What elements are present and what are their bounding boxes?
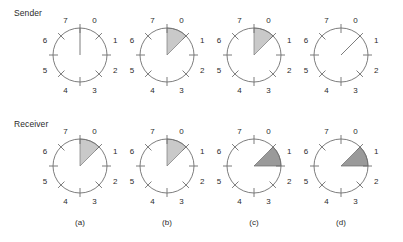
- sector-label-5-receiver-c: 5: [217, 177, 222, 186]
- sector-label-5-receiver-d: 5: [304, 177, 309, 186]
- sector-label-3-sender-a: 3: [92, 86, 97, 95]
- sector-label-6-sender-c: 6: [217, 36, 222, 45]
- sector-label-2-receiver-c: 2: [287, 177, 292, 186]
- sector-label-6-receiver-d: 6: [304, 147, 309, 156]
- window-wedge-receiver-d: [341, 147, 368, 166]
- clock-receiver-a: 01234567: [43, 127, 118, 206]
- panel-caption-c: (c): [234, 218, 274, 227]
- sector-label-0-receiver-d: 0: [353, 127, 358, 136]
- sector-label-5-sender-a: 5: [43, 66, 48, 75]
- sector-label-3-receiver-b: 3: [179, 197, 184, 206]
- sector-label-7-receiver-b: 7: [150, 127, 155, 136]
- sector-label-3-sender-c: 3: [266, 86, 271, 95]
- sector-label-6-receiver-a: 6: [43, 147, 48, 156]
- sector-label-2-receiver-d: 2: [374, 177, 379, 186]
- panel-caption-d: (d): [321, 218, 361, 227]
- sector-label-4-receiver-c: 4: [237, 197, 242, 206]
- sector-label-5-sender-b: 5: [130, 66, 135, 75]
- sector-label-0-sender-c: 0: [266, 16, 271, 25]
- window-wedge-receiver-c: [254, 147, 281, 166]
- figure-canvas: Sender Receiver 012345670123456701234567…: [0, 0, 403, 242]
- sector-label-3-receiver-c: 3: [266, 197, 271, 206]
- sector-label-2-receiver-b: 2: [200, 177, 205, 186]
- sector-label-0-sender-a: 0: [92, 16, 97, 25]
- sector-label-7-sender-b: 7: [150, 16, 155, 25]
- sector-label-5-sender-c: 5: [217, 66, 222, 75]
- sector-label-5-sender-d: 5: [304, 66, 309, 75]
- sector-label-7-receiver-a: 7: [63, 127, 68, 136]
- sector-label-3-sender-b: 3: [179, 86, 184, 95]
- window-wedge-sender-c: [254, 28, 273, 55]
- sector-label-6-sender-d: 6: [304, 36, 309, 45]
- sector-label-0-receiver-c: 0: [266, 127, 271, 136]
- panel-caption-b: (b): [147, 218, 187, 227]
- sector-label-7-sender-d: 7: [324, 16, 329, 25]
- sector-label-2-sender-a: 2: [113, 66, 118, 75]
- clock-diagram-svg: 0123456701234567012345670123456701234567…: [0, 0, 403, 242]
- clock-receiver-c: 01234567: [217, 127, 292, 206]
- sector-label-1-receiver-a: 1: [113, 147, 118, 156]
- sector-label-1-sender-c: 1: [287, 36, 292, 45]
- clock-sender-c: 01234567: [217, 16, 292, 95]
- clock-receiver-d: 01234567: [304, 127, 379, 206]
- sector-label-0-sender-b: 0: [179, 16, 184, 25]
- sector-label-1-sender-b: 1: [200, 36, 205, 45]
- sector-label-5-receiver-b: 5: [130, 177, 135, 186]
- sector-label-7-receiver-d: 7: [324, 127, 329, 136]
- sector-label-4-receiver-d: 4: [324, 197, 329, 206]
- sector-label-4-sender-b: 4: [150, 86, 155, 95]
- sector-label-4-receiver-b: 4: [150, 197, 155, 206]
- sector-label-1-sender-a: 1: [113, 36, 118, 45]
- sector-label-4-sender-d: 4: [324, 86, 329, 95]
- window-wedge-sender-b: [167, 28, 186, 55]
- sector-label-2-sender-d: 2: [374, 66, 379, 75]
- clock-receiver-b: 01234567: [130, 127, 205, 206]
- sector-label-1-receiver-c: 1: [287, 147, 292, 156]
- sector-label-1-sender-d: 1: [374, 36, 379, 45]
- sector-label-7-receiver-c: 7: [237, 127, 242, 136]
- row-label-receiver: Receiver: [14, 119, 48, 129]
- sector-label-4-sender-c: 4: [237, 86, 242, 95]
- sector-label-1-receiver-d: 1: [374, 147, 379, 156]
- sector-label-6-sender-b: 6: [130, 36, 135, 45]
- sector-label-4-sender-a: 4: [63, 86, 68, 95]
- clock-sender-d: 01234567: [304, 16, 379, 95]
- clock-sender-b: 01234567: [130, 16, 205, 95]
- sector-label-2-receiver-a: 2: [113, 177, 118, 186]
- sector-label-3-sender-d: 3: [353, 86, 358, 95]
- sector-label-6-receiver-b: 6: [130, 147, 135, 156]
- window-wedge-receiver-a: [80, 139, 99, 166]
- sector-label-3-receiver-a: 3: [92, 197, 97, 206]
- sector-label-2-sender-b: 2: [200, 66, 205, 75]
- row-label-sender: Sender: [14, 8, 42, 18]
- sector-label-0-sender-d: 0: [353, 16, 358, 25]
- panel-caption-a: (a): [60, 218, 100, 227]
- sector-label-3-receiver-d: 3: [353, 197, 358, 206]
- window-pointer-sender-d: [341, 36, 360, 55]
- sector-label-0-receiver-a: 0: [92, 127, 97, 136]
- sector-label-6-receiver-c: 6: [217, 147, 222, 156]
- sector-label-5-receiver-a: 5: [43, 177, 48, 186]
- sector-label-0-receiver-b: 0: [179, 127, 184, 136]
- sector-label-7-sender-a: 7: [63, 16, 68, 25]
- sector-label-2-sender-c: 2: [287, 66, 292, 75]
- window-wedge-receiver-b: [167, 139, 186, 166]
- sector-label-6-sender-a: 6: [43, 36, 48, 45]
- sector-label-4-receiver-a: 4: [63, 197, 68, 206]
- sector-label-1-receiver-b: 1: [200, 147, 205, 156]
- sector-label-7-sender-c: 7: [237, 16, 242, 25]
- clock-sender-a: 01234567: [43, 16, 118, 95]
